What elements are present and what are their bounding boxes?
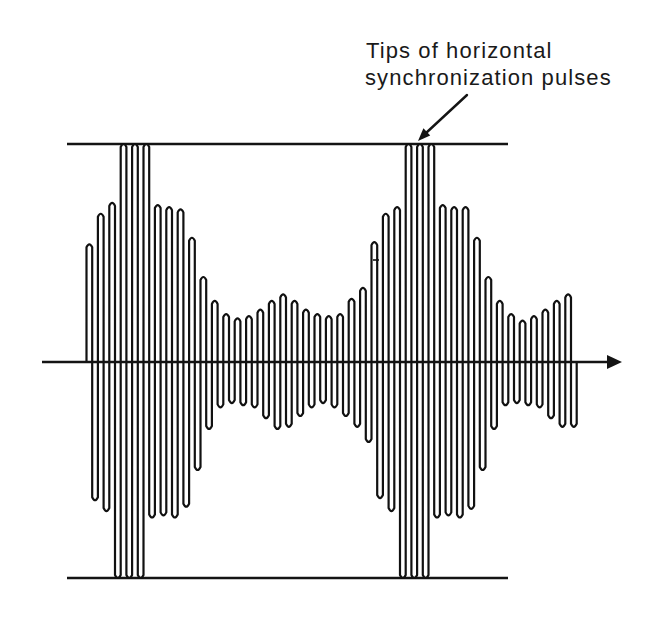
annotation-label-line1: Tips of horizontal — [366, 38, 553, 63]
waveform-diagram: Tips of horizontal synchronization pulse… — [0, 0, 656, 618]
pointer-arrow-shaft — [426, 95, 467, 133]
pointer-arrow-icon — [418, 95, 467, 141]
axis-arrowhead-icon — [607, 355, 622, 369]
waveform-figure: Tips of horizontal synchronization pulse… — [0, 0, 656, 618]
annotation-label-line2: synchronization pulses — [365, 65, 612, 90]
